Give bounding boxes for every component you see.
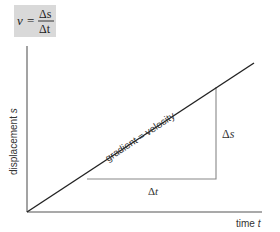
x-axis-label: time t <box>236 218 262 229</box>
gradient-label: gradient = velocity <box>103 110 177 164</box>
formula-lhs: v <box>17 13 23 28</box>
formula-numerator: Δs <box>39 7 52 21</box>
velocity-formula: v = Δs Δt <box>17 7 54 36</box>
formula-denominator: Δt <box>39 22 51 36</box>
y-axis-label: displacement s <box>8 108 19 175</box>
delta-t-label: Δt <box>148 185 159 197</box>
delta-s-label: Δs <box>222 127 235 141</box>
displacement-time-graph: v = Δs Δt displacement s time t gradient… <box>0 0 280 232</box>
formula-equals: = <box>27 13 34 28</box>
